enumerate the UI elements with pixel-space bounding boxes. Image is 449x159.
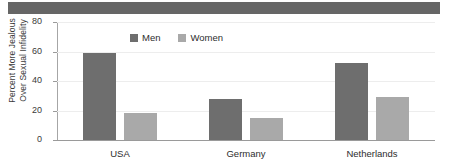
y-tick-label: 40: [20, 76, 42, 85]
legend-swatch-men-icon: [130, 34, 138, 42]
legend-label-women: Women: [190, 33, 223, 43]
chart-figure: Percent More Jealous Over Sexual Infidel…: [0, 16, 449, 159]
y-tick: [53, 52, 57, 53]
y-tick-label: 0: [20, 135, 42, 144]
bar-usa-men: [83, 53, 116, 140]
plot-area: 020406080 USAGermanyNetherlands Men Wome…: [57, 22, 435, 140]
y-tick-label: 60: [20, 47, 42, 56]
top-banner-bar: [8, 2, 440, 14]
category-label-germany: Germany: [196, 148, 296, 159]
chart-legend: Men Women: [130, 33, 241, 43]
bar-germany-women: [250, 118, 283, 140]
y-axis-title-line1: Percent More Jealous: [7, 0, 18, 122]
gridline: [57, 22, 435, 23]
y-tick: [53, 81, 57, 82]
y-tick: [53, 22, 57, 23]
y-tick: [53, 111, 57, 112]
bar-netherlands-women: [376, 97, 409, 140]
category-label-usa: USA: [70, 148, 170, 159]
y-tick-label: 80: [20, 17, 42, 26]
y-tick-label: 20: [20, 106, 42, 115]
legend-swatch-women-icon: [178, 34, 186, 42]
y-tick: [53, 140, 57, 141]
bar-germany-men: [209, 99, 242, 140]
legend-label-men: Men: [142, 33, 160, 43]
bar-usa-women: [124, 113, 157, 140]
x-axis-line: [57, 140, 435, 141]
legend-item-women: Women: [178, 33, 223, 43]
category-label-netherlands: Netherlands: [322, 148, 422, 159]
legend-item-men: Men: [130, 33, 160, 43]
bar-netherlands-men: [335, 63, 368, 140]
